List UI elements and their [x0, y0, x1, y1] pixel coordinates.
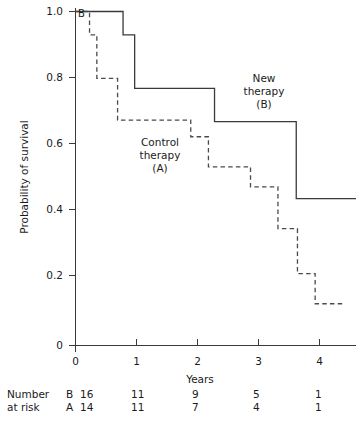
x-axis-tick-labels: 0 1 2 3 4: [72, 355, 323, 367]
risk-value: 11: [131, 388, 144, 401]
annotation-line: (A): [152, 162, 167, 174]
y-tick-label: 0.6: [46, 137, 63, 149]
annotation-line: Control: [141, 136, 179, 148]
curve-start-label-b: B: [78, 8, 85, 19]
plot-axes: [76, 8, 357, 346]
x-tick-label: 4: [316, 355, 323, 367]
risk-row-label: at risk: [7, 401, 40, 414]
y-axis-tick-labels: 1.0 0.8 0.6 0.4 0.2 0: [46, 5, 63, 351]
risk-value: 1: [315, 401, 322, 414]
risk-row-arm: B: [66, 388, 73, 401]
risk-value: 1: [315, 388, 322, 401]
risk-value: 14: [80, 401, 93, 414]
annotation-line: therapy: [244, 85, 285, 97]
annotation-line: (B): [256, 98, 271, 110]
y-tick-label: 0.8: [46, 71, 63, 83]
risk-value: 11: [131, 401, 144, 414]
risk-row-label: Number: [7, 388, 49, 401]
survival-curve-new-therapy-b: [76, 12, 357, 199]
y-tick-label: 0: [56, 339, 63, 351]
y-tick-label: 0.2: [46, 269, 63, 281]
risk-value: 7: [192, 401, 199, 414]
annotation-control-therapy-a: Control therapy (A): [140, 136, 181, 174]
table-row: at risk A 14 11 7 4 1: [0, 401, 362, 414]
numbers-at-risk-table: Number B 16 11 9 5 1 at risk A 14 11 7 4…: [0, 388, 362, 414]
y-axis-ticks: [69, 12, 76, 346]
risk-value: 9: [192, 388, 199, 401]
x-tick-label: 0: [72, 355, 79, 367]
y-tick-label: 1.0: [46, 5, 63, 17]
risk-value: 4: [253, 401, 260, 414]
risk-value: 16: [80, 388, 93, 401]
risk-value: 5: [253, 388, 260, 401]
kaplan-meier-figure: 1.0 0.8 0.6 0.4 0.2 0 Probability of sur…: [0, 0, 362, 428]
annotation-line: therapy: [140, 149, 181, 161]
x-tick-label: 2: [194, 355, 201, 367]
survival-plot: 1.0 0.8 0.6 0.4 0.2 0 Probability of sur…: [0, 0, 362, 390]
y-tick-label: 0.4: [46, 203, 63, 215]
survival-curve-control-therapy-a: [76, 12, 344, 304]
x-axis-title: Years: [185, 373, 214, 385]
table-row: Number B 16 11 9 5 1: [0, 388, 362, 401]
y-axis-title: Probability of survival: [18, 120, 30, 233]
annotation-new-therapy-b: New therapy (B): [244, 72, 285, 110]
x-tick-label: 3: [255, 355, 262, 367]
risk-row-arm: A: [66, 401, 73, 414]
x-tick-label: 1: [133, 355, 140, 367]
annotation-line: New: [253, 72, 276, 84]
